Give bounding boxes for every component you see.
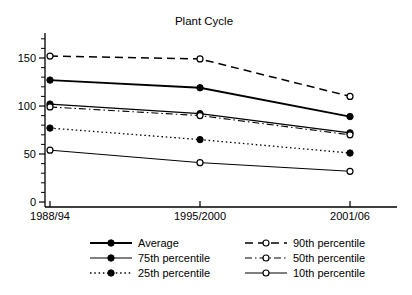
legend-item: 50th percentile <box>245 252 365 264</box>
legend-label: 90th percentile <box>293 237 365 249</box>
legend-label: 10th percentile <box>293 267 365 279</box>
chart-title: Plant Cycle <box>175 15 233 27</box>
legend-marker <box>108 255 114 261</box>
data-point-90th-percentile <box>47 53 53 59</box>
legend-label: Average <box>138 237 179 249</box>
chart-legend: Average75th percentile25th percentile90t… <box>90 237 365 279</box>
y-axis-tick-label: 150 <box>18 52 36 64</box>
data-point-average <box>197 85 203 91</box>
legend-marker <box>263 240 269 246</box>
y-axis-tick-label: 100 <box>18 100 36 112</box>
data-point-average <box>347 113 353 119</box>
legend-label: 50th percentile <box>293 252 365 264</box>
x-axis-tick-label: 1995/2000 <box>174 210 226 222</box>
data-point-10th-percentile <box>347 168 353 174</box>
y-axis-tick-label: 50 <box>24 148 36 160</box>
data-point-25th-percentile <box>197 136 203 142</box>
data-point-50th-percentile <box>197 113 203 119</box>
data-point-average <box>47 77 53 83</box>
data-point-50th-percentile <box>347 132 353 138</box>
plot-area: 0501001501988/941995/20002001/06 <box>18 33 397 222</box>
data-point-25th-percentile <box>47 125 53 131</box>
chart-figure: Plant Cycle 0501001501988/941995/2000200… <box>0 0 412 295</box>
legend-marker <box>263 255 269 261</box>
legend-marker <box>108 270 114 276</box>
legend-marker <box>108 240 114 246</box>
x-axis-tick-label: 2001/06 <box>330 210 370 222</box>
data-point-90th-percentile <box>197 56 203 62</box>
legend-item: 25th percentile <box>90 267 210 279</box>
data-point-10th-percentile <box>47 147 53 153</box>
legend-label: 75th percentile <box>138 252 210 264</box>
legend-item: 75th percentile <box>90 252 210 264</box>
chart-canvas: Plant Cycle 0501001501988/941995/2000200… <box>0 0 412 295</box>
legend-item: 10th percentile <box>245 267 365 279</box>
data-point-10th-percentile <box>197 160 203 166</box>
data-point-90th-percentile <box>347 93 353 99</box>
legend-item: Average <box>90 237 179 249</box>
legend-item: 90th percentile <box>245 237 365 249</box>
x-axis-tick-label: 1988/94 <box>30 210 70 222</box>
data-point-50th-percentile <box>47 104 53 110</box>
data-point-25th-percentile <box>347 150 353 156</box>
legend-marker <box>263 270 269 276</box>
y-axis-tick-label: 0 <box>30 196 36 208</box>
legend-label: 25th percentile <box>138 267 210 279</box>
